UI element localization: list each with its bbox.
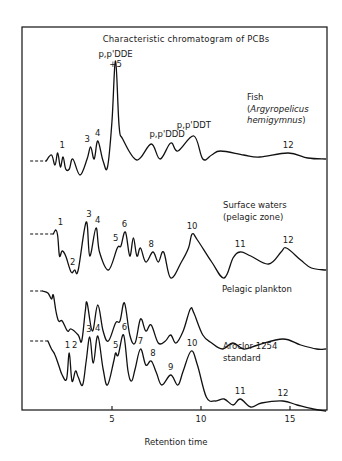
series-label: Fish [247, 92, 263, 102]
peak-label: 2 [72, 340, 77, 350]
series-labels-group: Fish(Argyropelicushemigymnus)Surface wat… [222, 92, 309, 363]
peak-label: 11 [235, 386, 246, 396]
chromatogram-figure: Characteristic chromatogram of PCBs 134p… [0, 0, 342, 461]
peak-label: 1 [59, 140, 64, 150]
peak-label: 4 [95, 128, 100, 138]
peak-label: +5 [109, 59, 122, 69]
series-label: (Argyropelicus [247, 104, 309, 114]
series-label: (pelagic zone) [223, 212, 283, 222]
peak-label: p,p'DDD [149, 129, 185, 139]
peak-label: 5 [113, 233, 118, 243]
peak-label: 8 [150, 348, 155, 358]
x-axis: 51015 [109, 406, 295, 424]
chart-title: Characteristic chromatogram of PCBs [103, 34, 270, 44]
peak-label: 1 [65, 340, 70, 350]
peak-label: 4 [95, 323, 100, 333]
peak-label: 12 [277, 388, 288, 398]
series-label: Pelagic plankton [222, 284, 292, 294]
x-tick-label: 15 [285, 414, 296, 424]
series-label: standard [223, 353, 261, 363]
peak-label: 2 [70, 257, 75, 267]
peak-label: 9 [168, 362, 173, 372]
peak-label: 10 [187, 338, 198, 348]
x-tick-label: 10 [196, 414, 207, 424]
peak-label: 4 [95, 215, 100, 225]
peak-label: 12 [283, 235, 294, 245]
peak-label: 3 [86, 324, 91, 334]
series-label: Surface waters [223, 200, 287, 210]
peak-label: 6 [122, 219, 127, 229]
series-label: hemigymnus) [247, 115, 306, 125]
x-tick-label: 5 [109, 414, 114, 424]
peak-label: 12 [283, 140, 294, 150]
peak-label: 6 [122, 322, 127, 332]
peak-label: 11 [235, 239, 246, 249]
chromatogram-trace [43, 291, 326, 349]
peak-label: p,p'DDE [98, 49, 132, 59]
x-axis-label: Retention time [145, 437, 208, 447]
peak-label: 3 [84, 134, 89, 144]
peak-label: 3 [86, 209, 91, 219]
peak-label: 10 [187, 221, 198, 231]
series-label: Aroclor 1254 [223, 341, 277, 351]
peak-label: 5 [113, 340, 118, 350]
peak-label: 8 [148, 239, 153, 249]
peak-label: 7 [138, 336, 143, 346]
peak-label: 1 [58, 217, 63, 227]
peak-label: p,p'DDT [177, 120, 212, 130]
